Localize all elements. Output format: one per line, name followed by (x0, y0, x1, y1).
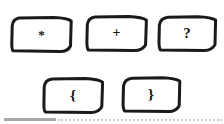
key-plus[interactable]: + (85, 14, 148, 52)
key-asterisk[interactable]: * (10, 15, 73, 53)
question-mark-symbol: ? (157, 14, 217, 52)
footer-solid-rule (4, 118, 56, 121)
right-curly-brace-symbol: } (121, 75, 181, 113)
plus-symbol: + (85, 14, 148, 52)
key-question[interactable]: ? (157, 14, 217, 52)
footer-dotted-rule (58, 119, 222, 121)
key-left-brace[interactable]: { (42, 76, 104, 114)
key-right-brace[interactable]: } (121, 75, 181, 113)
key-diagram-canvas: * + ? { } (0, 0, 224, 124)
asterisk-symbol: * (10, 15, 73, 54)
left-curly-brace-symbol: { (42, 76, 104, 114)
